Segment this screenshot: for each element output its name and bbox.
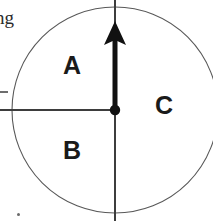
region-label-a: A [63, 53, 81, 78]
region-label-b: B [63, 138, 81, 163]
stray-dot-artifact [17, 213, 20, 216]
figure-canvas: A B C ng [0, 0, 213, 221]
cropped-caption-fragment: ng [0, 8, 14, 27]
center-point-dot [110, 105, 120, 115]
circle-diagram [0, 0, 213, 221]
region-label-c: C [155, 93, 173, 118]
